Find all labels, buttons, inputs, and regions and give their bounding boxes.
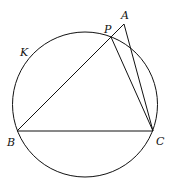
segment-ba: [17, 24, 124, 131]
label-a: A: [120, 9, 129, 22]
circle-k: [13, 32, 158, 177]
geometry-diagram: A P K B C: [0, 0, 174, 192]
label-k: K: [19, 46, 29, 59]
segment-ac: [124, 24, 153, 131]
label-c: C: [156, 135, 165, 148]
label-p: P: [103, 23, 112, 36]
segment-pc: [111, 37, 153, 131]
label-b: B: [6, 136, 15, 149]
